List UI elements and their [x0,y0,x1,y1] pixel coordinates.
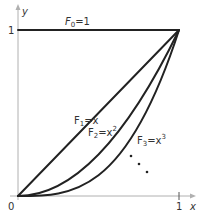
x-axis-label: x [189,201,196,212]
curves [18,30,179,196]
x-axis-arrow-icon [190,194,196,199]
function-sequence-diagram: y 1 0 1 x F0=1 F1=x F2=x2 F3=x3 [0,0,204,218]
y-tick-label: 1 [8,25,14,36]
curve-f1 [18,30,179,196]
x-tick-label: 1 [176,201,182,212]
y-axis-arrow-icon [16,4,21,10]
label-f0: F0=1 [65,16,90,29]
label-f3: F3=x3 [137,133,166,148]
y-axis-label: y [21,6,29,17]
origin-label: 0 [8,201,14,212]
ellipsis-dots [130,155,149,174]
